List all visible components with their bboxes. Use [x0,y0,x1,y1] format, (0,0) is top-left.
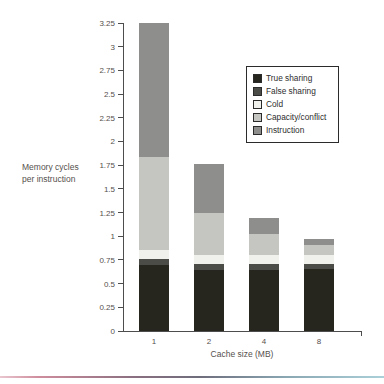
bar-segment-instruction-4 [249,218,279,234]
legend-item-instruction: Instruction [253,125,336,135]
y-axis-line [123,23,124,332]
y-tick-label: 0 [111,327,115,336]
bar-segment-false-sharing-2 [194,264,224,270]
y-tick-label: 1.5 [104,184,115,193]
page-divider [0,376,384,378]
legend-item-capacity-conflict: Capacity/conflict [253,112,336,122]
y-tick [118,188,123,189]
figure-memory-cycles-chart: 00.250.50.7511.251.51.7522.252.52.7533.2… [0,0,384,384]
x-tick-label-1: 1 [152,337,156,346]
y-tick [118,117,123,118]
legend-item-cold: Cold [253,99,336,109]
legend-label: True sharing [266,73,312,83]
bar-segment-cold-4 [249,255,279,264]
y-tick-label: 3.25 [99,19,115,28]
legend-swatch-icon [253,113,262,122]
legend-label: Capacity/conflict [266,112,326,122]
x-tick-label-8: 8 [317,337,321,346]
y-tick [118,165,123,166]
bar-segment-instruction-8 [304,239,334,245]
y-tick-label: 1.25 [99,208,115,217]
bar-segment-true-sharing-2 [194,270,224,331]
bar-segment-instruction-1 [139,23,169,157]
bar-segment-true-sharing-8 [304,269,334,331]
bar-segment-true-sharing-1 [139,265,169,331]
legend-label: Cold [266,99,283,109]
legend-item-true-sharing: True sharing [253,73,336,83]
x-axis-line [123,331,362,332]
legend-swatch-icon [253,74,262,83]
y-tick-label: 0.25 [99,303,115,312]
legend: True sharingFalse sharingColdCapacity/co… [246,66,339,143]
bar-segment-true-sharing-4 [249,270,279,331]
x-tick-label-4: 4 [262,337,266,346]
y-axis-title-line1: Memory cycles [22,161,79,173]
x-tick-label-2: 2 [207,337,211,346]
y-tick [118,236,123,237]
bar-segment-capacity-conflict-4 [249,234,279,255]
y-tick-label: 1 [111,232,115,241]
legend-item-false-sharing: False sharing [253,86,336,96]
bar-segment-cold-1 [139,250,169,259]
y-tick [118,331,123,332]
bar-segment-false-sharing-1 [139,259,169,265]
y-tick [118,23,123,24]
bar-segment-false-sharing-8 [304,264,334,269]
y-tick-label: 0.75 [99,255,115,264]
y-tick [118,141,123,142]
bar-segment-capacity-conflict-2 [194,213,224,255]
y-tick-label: 1.75 [99,161,115,170]
y-tick-label: 2.25 [99,113,115,122]
y-tick-label: 3 [111,42,115,51]
bar-segment-false-sharing-4 [249,264,279,270]
y-tick [118,70,123,71]
bar-segment-cold-2 [194,255,224,264]
y-tick [118,46,123,47]
legend-swatch-icon [253,126,262,135]
y-tick-label: 0.5 [104,279,115,288]
y-tick [118,259,123,260]
y-tick [118,94,123,95]
y-tick [118,307,123,308]
x-axis-end-tick [361,332,362,336]
y-tick-label: 2.5 [104,90,115,99]
bar-segment-capacity-conflict-1 [139,157,169,250]
bar-segment-capacity-conflict-8 [304,245,334,255]
bar-segment-cold-8 [304,255,334,264]
y-tick-label: 2.75 [99,66,115,75]
legend-swatch-icon [253,100,262,109]
bar-segment-instruction-2 [194,164,224,213]
y-axis-title-line2: per instruction [22,173,79,185]
legend-label: False sharing [266,86,316,96]
y-tick [118,212,123,213]
y-axis-title: Memory cycles per instruction [22,161,79,185]
y-tick-label: 2 [111,137,115,146]
x-axis-title: Cache size (MB) [211,349,274,359]
legend-swatch-icon [253,87,262,96]
legend-label: Instruction [266,125,304,135]
y-tick [118,283,123,284]
